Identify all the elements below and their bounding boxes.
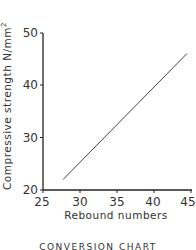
y-axis-superscript: 2 bbox=[0, 22, 8, 27]
y-axis-title-group: Compressive strength N/mm2 bbox=[0, 22, 13, 190]
y-tick-label: 40 bbox=[23, 78, 38, 92]
x-tick-label: 40 bbox=[145, 195, 160, 209]
x-ticks: 25 30 35 40 45 bbox=[34, 190, 195, 209]
y-tick-label: 30 bbox=[23, 131, 38, 145]
chart-caption: CONVERSION CHART bbox=[0, 242, 196, 250]
x-tick-label: 30 bbox=[72, 195, 87, 209]
conversion-line bbox=[63, 54, 187, 180]
x-tick-label: 45 bbox=[180, 195, 195, 209]
y-tick-label: 50 bbox=[23, 26, 38, 40]
y-axis-title: Compressive strength N/mm bbox=[1, 27, 13, 190]
y-ticks: 50 40 30 20 bbox=[23, 26, 43, 197]
conversion-chart: 50 40 30 20 25 30 35 40 45 Rebound numbe… bbox=[0, 0, 196, 250]
x-axis-title: Rebound numbers bbox=[64, 209, 168, 221]
x-tick-label: 25 bbox=[34, 195, 49, 209]
svg-text:Compressive strength N/mm2: Compressive strength N/mm2 bbox=[0, 22, 13, 190]
x-tick-label: 35 bbox=[109, 195, 124, 209]
